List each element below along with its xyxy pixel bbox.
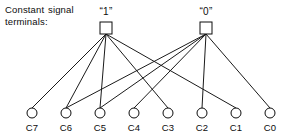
wire-zero-to-c2	[202, 34, 206, 108]
terminal-label-c3: C3	[156, 122, 180, 133]
terminal-label-c5: C5	[88, 122, 112, 133]
terminal-node-c5[interactable]	[95, 108, 105, 118]
terminal-node-c4[interactable]	[129, 108, 139, 118]
caption-text: Constant signal terminals:	[5, 4, 74, 27]
source-terminal-zero[interactable]	[200, 22, 212, 34]
source-terminal-one[interactable]	[100, 22, 112, 34]
wire-zero-to-c6	[66, 34, 206, 108]
terminal-node-c6[interactable]	[61, 108, 71, 118]
terminal-label-c4: C4	[122, 122, 146, 133]
terminal-node-c2[interactable]	[197, 108, 207, 118]
terminal-node-c0[interactable]	[265, 108, 275, 118]
wire-zero-to-c4	[134, 34, 206, 108]
terminal-node-c1[interactable]	[231, 108, 241, 118]
terminal-node-c3[interactable]	[163, 108, 173, 118]
terminal-node-c7[interactable]	[27, 108, 37, 118]
wire-one-to-c1	[106, 34, 236, 108]
terminal-label-c1: C1	[224, 122, 248, 133]
terminal-label-c6: C6	[54, 122, 78, 133]
source-label-zero: “0”	[186, 6, 226, 17]
terminal-label-c2: C2	[190, 122, 214, 133]
terminal-label-c7: C7	[20, 122, 44, 133]
wire-one-to-c5	[100, 34, 106, 108]
wire-one-to-c7	[32, 34, 106, 108]
source-label-one: “1”	[86, 6, 126, 17]
terminal-label-c0: C0	[258, 122, 282, 133]
constant-signal-terminals-figure: Constant signal terminals: “1” “0” C7C6C…	[0, 0, 288, 137]
